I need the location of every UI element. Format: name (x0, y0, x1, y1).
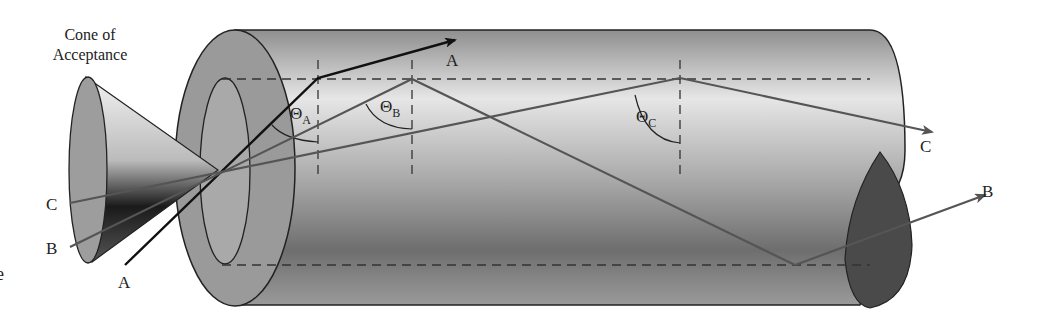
ray-b-label-in: B (46, 239, 57, 258)
fiber-cylinder (175, 30, 912, 308)
cone-title-line1: Cone of (64, 26, 116, 43)
ray-b-label-out: B (982, 182, 993, 201)
cropped-caption-glyph: e (0, 264, 4, 284)
optical-fiber-diagram: Cone of Acceptance e C B A A C B ΘA ΘB Θ… (0, 0, 1047, 328)
ray-a-label-in: A (118, 273, 131, 292)
ray-c-label-in: C (46, 195, 57, 214)
ray-c-label-out: C (920, 137, 931, 156)
cone-title-line2: Acceptance (53, 46, 128, 64)
ray-a-label-out: A (446, 51, 459, 70)
